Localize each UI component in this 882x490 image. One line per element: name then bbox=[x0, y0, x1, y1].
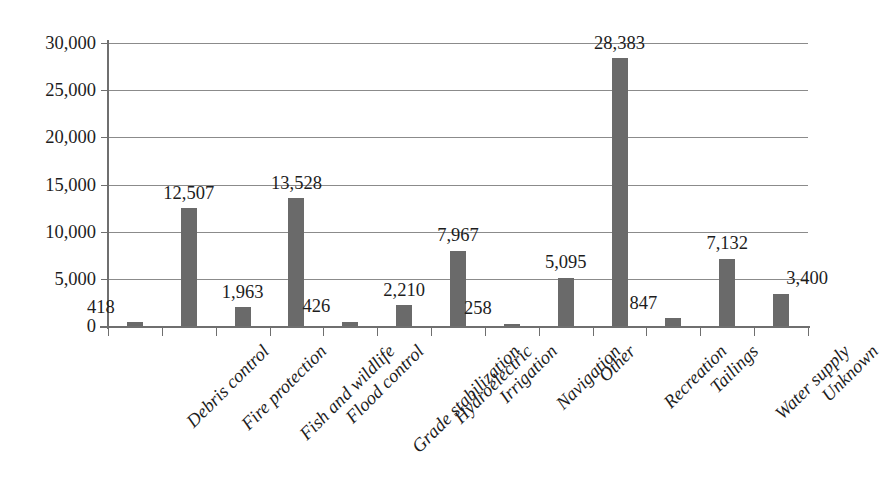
x-axis-category-label: Other bbox=[594, 341, 639, 386]
